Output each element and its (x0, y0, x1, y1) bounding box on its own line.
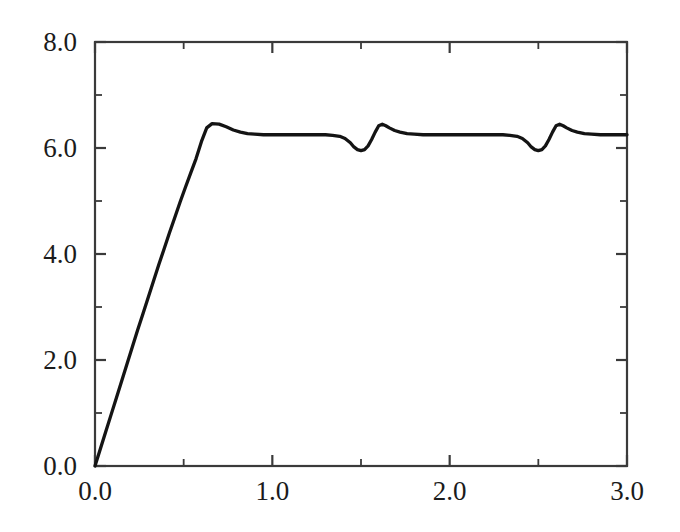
y-tick-label: 0.0 (43, 451, 77, 481)
chart-page: 0.02.04.06.08.0 0.01.02.03.0 (0, 0, 680, 532)
x-tick-label: 1.0 (255, 476, 289, 506)
y-tick-label: 6.0 (43, 133, 77, 163)
x-tick-label: 0.0 (78, 476, 112, 506)
x-tick-label: 3.0 (610, 476, 644, 506)
line-chart-figure: 0.02.04.06.08.0 0.01.02.03.0 (0, 0, 680, 532)
y-tick-label: 2.0 (43, 345, 77, 375)
x-tick-label: 2.0 (433, 476, 467, 506)
chart-background (0, 0, 680, 532)
y-tick-label: 4.0 (43, 239, 77, 269)
y-tick-label: 8.0 (43, 27, 77, 57)
